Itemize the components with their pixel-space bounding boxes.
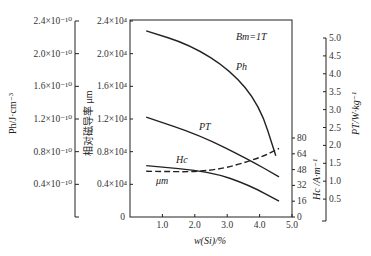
pt-axis-label: PT/W·kg⁻¹ (350, 92, 361, 136)
curve-μm (146, 148, 279, 171)
curve-label-pt: PT (198, 121, 212, 132)
hc-axis-label: Hc /A·m⁻¹ (311, 159, 322, 201)
ph-axis-label: Ph/J·cm⁻³ (7, 93, 18, 134)
hc-tick-label: 32 (297, 180, 307, 190)
curve-label-hc: Hc (175, 154, 188, 165)
hc-tick-label: 0 (297, 212, 302, 222)
mu-axis-label: 相对磁导率 μm (82, 90, 94, 156)
pt-tick-label: 2.0 (329, 140, 341, 150)
curve-label-ph: Ph (235, 61, 247, 72)
curve-Ph (146, 31, 276, 156)
x-tick-label: 4.0 (254, 220, 266, 230)
ph-tick-label: 0.8×10⁻¹⁰ (34, 147, 73, 157)
pt-tick-label: 3.5 (329, 87, 341, 97)
mu-tick-label: 2.0×10⁴ (97, 49, 128, 59)
mu-tick-label: 1.6×10⁴ (97, 81, 128, 91)
svg-text:0: 0 (120, 212, 125, 222)
ph-tick-label: 1.6×10⁻¹⁰ (34, 81, 73, 91)
ph-tick-label: 0.4×10⁻¹⁰ (34, 179, 73, 189)
hc-tick-label: 16 (297, 196, 307, 206)
pt-tick-label: 4.5 (329, 51, 341, 61)
x-tick-label: 2.0 (189, 220, 201, 230)
mu-tick-label: 2.4×10⁴ (97, 16, 128, 26)
mu-tick-label: 1.2×10⁴ (97, 114, 128, 124)
pt-tick-label: 4.0 (329, 69, 341, 79)
curve-label-mu: μm (155, 175, 168, 186)
hc-tick-label: 80 (297, 133, 307, 143)
pt-tick-label: 2.5 (329, 123, 341, 133)
pt-tick-label: 1.0 (329, 176, 341, 186)
mu-tick-label: 0.8×10⁴ (97, 147, 128, 157)
ph-tick-label: 2.0×10⁻¹⁰ (34, 49, 73, 59)
pt-tick-label: 5.0 (329, 33, 341, 43)
hc-tick-label: 48 (297, 165, 307, 175)
plot-frame (130, 20, 292, 217)
ph-tick-label: 1.2×10⁻¹⁰ (34, 114, 73, 124)
ph-tick-label: 2.4×10⁻¹⁰ (34, 16, 73, 26)
mu-tick-label: 0.4×10⁴ (97, 179, 128, 189)
pt-tick-label: 3.0 (329, 105, 341, 115)
x-axis-label: w(Si)/% (194, 235, 226, 247)
pt-tick-label: 0.5 (329, 194, 341, 204)
x-tick-label: 1.0 (156, 220, 168, 230)
x-tick-label: 3.0 (221, 220, 233, 230)
annotation-bm: Bm=1T (236, 31, 268, 42)
hc-tick-label: 64 (297, 149, 307, 159)
pt-tick-label: 1.5 (329, 158, 341, 168)
chart: 1.02.03.04.05.00w(Si)/%2.4×10⁴2.0×10⁴1.6… (0, 0, 371, 256)
